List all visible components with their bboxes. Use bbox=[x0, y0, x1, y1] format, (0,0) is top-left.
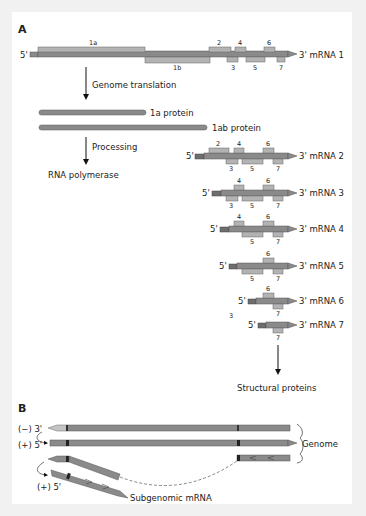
gene-label: 3 bbox=[229, 202, 233, 210]
gene-label: 5 bbox=[250, 165, 254, 173]
gene-label: 2 bbox=[216, 140, 220, 148]
mrna4-label: 3' mRNA 4 bbox=[299, 224, 344, 234]
mrna6-five-label: 5' bbox=[238, 296, 246, 306]
mrna-2 bbox=[195, 148, 297, 164]
gene-label: 6 bbox=[266, 285, 270, 293]
structural-proteins-label: Structural proteins bbox=[237, 383, 317, 393]
gene-label: 4 bbox=[237, 213, 241, 221]
gene-label: 7 bbox=[276, 275, 280, 283]
processing-label: Processing bbox=[92, 142, 137, 152]
gene-label: 7 bbox=[276, 310, 280, 318]
mrna-3 bbox=[212, 185, 297, 201]
gene-label: 6 bbox=[266, 140, 270, 148]
protein-1a-bar bbox=[39, 110, 146, 115]
panel-b-label: B bbox=[18, 402, 26, 415]
mrna7-label: 3' mRNA 7 bbox=[299, 320, 344, 330]
mrna5-five-label: 5' bbox=[219, 261, 227, 271]
mrna2-five-label: 5' bbox=[186, 151, 194, 161]
gene-label: 5 bbox=[250, 202, 254, 210]
subgenomic-switch-arrow bbox=[37, 462, 46, 475]
panel-a-label: A bbox=[18, 23, 27, 36]
gene-6-label: 6 bbox=[267, 39, 271, 47]
orf-1b-label: 1b bbox=[173, 64, 181, 72]
gene-label: 6 bbox=[266, 213, 270, 221]
gene-label: 7 bbox=[276, 202, 280, 210]
gene-label: 7 bbox=[276, 238, 280, 246]
minus-strand bbox=[48, 425, 290, 431]
gene-label: 6 bbox=[266, 250, 270, 258]
protein-1ab-bar bbox=[39, 125, 207, 130]
mrna-6 bbox=[248, 293, 297, 309]
gene-2-label: 2 bbox=[217, 39, 221, 47]
genome-mrna1 bbox=[30, 47, 297, 63]
mrna6-label: 3' mRNA 6 bbox=[299, 296, 344, 306]
gene-label: 4 bbox=[237, 177, 241, 185]
orf-1a-label: 1a bbox=[89, 39, 97, 47]
protein-1ab-label: 1ab protein bbox=[212, 123, 261, 133]
mrna1-label: 3' mRNA 1 bbox=[299, 50, 344, 60]
gene-7-label: 7 bbox=[279, 64, 283, 72]
stray-gene-label: 3 bbox=[229, 312, 233, 320]
plus-strand-label: (+) 5' bbox=[18, 440, 42, 450]
mrna4-five-label: 5' bbox=[210, 224, 218, 234]
gene-5-label: 5 bbox=[253, 64, 257, 72]
gene-label: 3 bbox=[229, 165, 233, 173]
gene-label: 7 bbox=[276, 165, 280, 173]
mrna2-label: 3' mRNA 2 bbox=[299, 151, 344, 161]
plus-strand bbox=[50, 440, 297, 446]
mrna-5 bbox=[229, 258, 297, 274]
genome-label: Genome bbox=[302, 439, 338, 449]
subgenomic-plus-label: (+) 5' bbox=[37, 482, 61, 492]
mrna7-five-label: 5' bbox=[248, 320, 256, 330]
five-prime-label: 5' bbox=[20, 50, 28, 60]
genome-translation-label: Genome translation bbox=[92, 80, 176, 90]
mrna-4 bbox=[220, 221, 297, 237]
gene-label: 6 bbox=[266, 177, 270, 185]
gene-label: 4 bbox=[237, 140, 241, 148]
rna-polymerase-label: RNA polymerase bbox=[48, 170, 119, 180]
mrna3-five-label: 5' bbox=[202, 188, 210, 198]
gene-label: 5 bbox=[250, 275, 254, 283]
minus-strand-label: (−) 3' bbox=[18, 424, 42, 434]
mrna3-label: 3' mRNA 3 bbox=[299, 188, 344, 198]
mrna5-label: 3' mRNA 5 bbox=[299, 261, 344, 271]
coronavirus-genome-diagram: A 5' 3' mRNA 1 1a 1b 2 3 4 5 6 7 Genome … bbox=[0, 0, 366, 516]
gene-label: 5 bbox=[250, 238, 254, 246]
protein-1a-label: 1a protein bbox=[150, 108, 194, 118]
gene-4-label: 4 bbox=[238, 39, 242, 47]
gene-3-label: 3 bbox=[231, 64, 235, 72]
mrna-7 bbox=[258, 322, 297, 333]
subgenomic-mrna-label: Subgenomic mRNA bbox=[130, 493, 212, 503]
gene-label: 7 bbox=[276, 334, 280, 342]
